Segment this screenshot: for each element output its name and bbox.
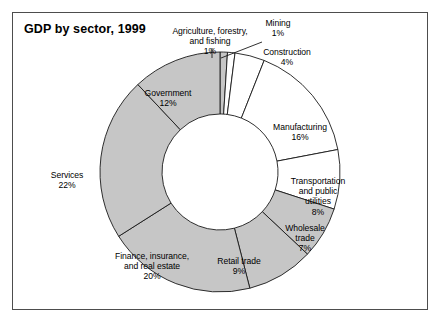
- slice-label-percent: 8%: [277, 207, 359, 217]
- slice-label: Wholesale trade7%: [272, 223, 338, 254]
- slice-label-percent: 12%: [126, 98, 210, 108]
- slice-label-name: Agriculture, forestry, and fishing: [172, 26, 247, 46]
- slice-label-name: Mining: [265, 18, 290, 28]
- slice-label-percent: 16%: [258, 132, 342, 142]
- slice-label-percent: 9%: [202, 266, 276, 276]
- slice-label-name: Manufacturing: [273, 122, 327, 132]
- slice-label-name: Retail trade: [217, 256, 260, 266]
- slice-label: Services22%: [36, 170, 98, 190]
- slice-label-name: Wholesale trade: [285, 223, 325, 243]
- slice-label-name: Government: [145, 88, 192, 98]
- slice-label-percent: 20%: [100, 271, 204, 281]
- slice-label-percent: 1%: [252, 28, 304, 38]
- slice-label-name: Transportation and public utilities: [291, 176, 345, 206]
- slice-label: Retail trade9%: [202, 256, 276, 276]
- slice-label: Transportation and public utilities8%: [277, 176, 359, 217]
- slice-label-name: Finance, insurance, and real estate: [115, 251, 189, 271]
- slice-label-name: Construction: [263, 47, 311, 57]
- figure-root: GDP by sector, 1999 Agriculture, forestr…: [0, 0, 440, 326]
- slice-label: Mining1%: [252, 18, 304, 38]
- slice-label: Construction4%: [250, 47, 324, 67]
- slice-label: Manufacturing16%: [258, 122, 342, 142]
- slice-label-percent: 4%: [250, 57, 324, 67]
- slice-label-percent: 7%: [272, 243, 338, 253]
- slice-label-name: Services: [51, 170, 84, 180]
- slice-label-percent: 22%: [36, 180, 98, 190]
- slice-label: Government12%: [126, 88, 210, 108]
- slice-label: Finance, insurance, and real estate20%: [100, 251, 204, 282]
